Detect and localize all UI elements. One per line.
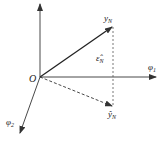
y-hat-n-vector bbox=[40, 77, 112, 106]
phi2-label: φ2 bbox=[6, 117, 14, 128]
projection-diagram: O φ1 φ2 yN ŷN ε̂N bbox=[0, 0, 163, 143]
phi1-label: φ1 bbox=[148, 62, 156, 73]
y-n-label: yN bbox=[103, 13, 113, 24]
y-hat-n-label: ŷN bbox=[107, 109, 117, 120]
origin-label: O bbox=[29, 73, 36, 84]
y-n-vector bbox=[40, 27, 112, 77]
epsilon-hat-n-label: ε̂N bbox=[96, 53, 105, 64]
phi2-axis bbox=[20, 77, 40, 133]
